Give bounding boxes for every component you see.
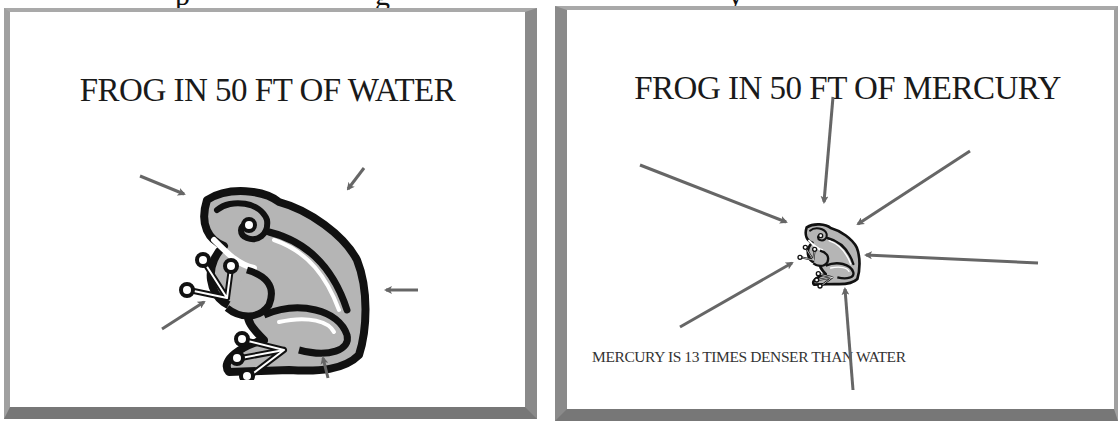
cut-off-glyph: p — [175, 0, 190, 8]
cut-off-glyph: g — [375, 0, 390, 8]
slide-title: FROG IN 50 FT OF MERCURY — [581, 70, 1114, 107]
slide-mercury: FROG IN 50 FT OF MERCURY MERCURY IS 13 T… — [555, 6, 1118, 421]
density-caption: MERCURY IS 13 TIMES DENSER THAN WATER — [592, 348, 906, 366]
slide-title: FROG IN 50 FT OF WATER — [10, 72, 525, 109]
slide-water: FROG IN 50 FT OF WATER — [4, 8, 537, 419]
